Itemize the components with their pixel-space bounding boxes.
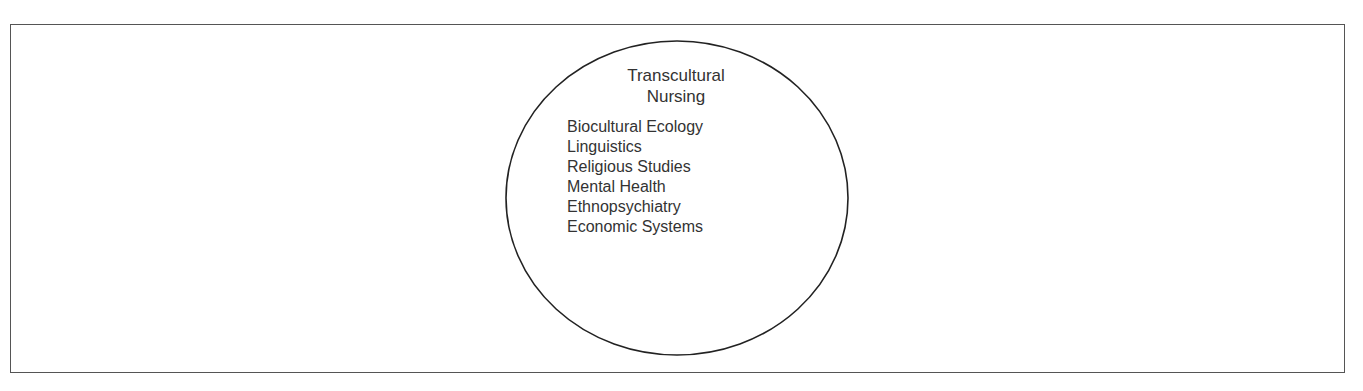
list-item: Biocultural Ecology <box>567 117 800 137</box>
list-item: Mental Health <box>567 177 800 197</box>
title-line-1: Transcultural <box>560 65 792 86</box>
circle-content: Transcultural Nursing Biocultural Ecolog… <box>560 65 800 237</box>
diagram-title: Transcultural Nursing <box>560 65 792 107</box>
list-item: Religious Studies <box>567 157 800 177</box>
list-item: Linguistics <box>567 137 800 157</box>
item-list: Biocultural Ecology Linguistics Religiou… <box>567 117 800 237</box>
title-line-2: Nursing <box>560 86 792 107</box>
list-item: Economic Systems <box>567 217 800 237</box>
list-item: Ethnopsychiatry <box>567 197 800 217</box>
